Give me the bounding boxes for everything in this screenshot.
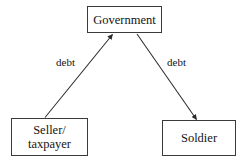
node-seller-taxpayer: Seller/ taxpayer [11,118,88,156]
node-soldier-label: Soldier [181,131,217,145]
edge-seller-to-government [45,35,113,118]
node-soldier: Soldier [162,120,236,156]
diagram-canvas: Government Seller/ taxpayer Soldier debt… [0,0,247,162]
node-government: Government [87,6,162,33]
edge-label-seller-to-government: debt [56,56,75,68]
edge-label-government-to-soldier: debt [167,56,186,68]
node-seller-taxpayer-label: Seller/ taxpayer [28,123,71,151]
node-government-label: Government [93,13,155,27]
edge-government-to-soldier [137,34,197,120]
